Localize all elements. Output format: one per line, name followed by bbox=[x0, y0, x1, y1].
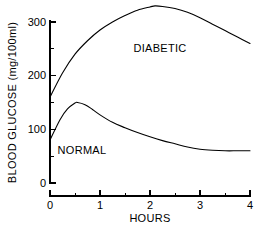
chart-svg: 0 100 200 300 0 1 2 3 4 HOURS BLOOD GLUC… bbox=[0, 0, 271, 235]
x-axis-title: HOURS bbox=[129, 212, 170, 224]
diabetic-series-label: DIABETIC bbox=[133, 42, 186, 54]
y-tick-label-0: 0 bbox=[40, 177, 46, 189]
y-tick-label-200: 200 bbox=[28, 69, 46, 81]
y-axis-title: BLOOD GLUCOSE (mg/100ml) bbox=[6, 22, 18, 183]
normal-series-label: NORMAL bbox=[58, 144, 107, 156]
y-tick-label-300: 300 bbox=[28, 16, 46, 28]
x-tick-label-2: 2 bbox=[147, 199, 153, 211]
x-tick-label-3: 3 bbox=[197, 199, 203, 211]
x-tick-label-0: 0 bbox=[47, 199, 53, 211]
blood-glucose-chart: 0 100 200 300 0 1 2 3 4 HOURS BLOOD GLUC… bbox=[0, 0, 271, 235]
y-tick-label-100: 100 bbox=[28, 123, 46, 135]
x-tick-label-1: 1 bbox=[97, 199, 103, 211]
x-axis-major-ticks bbox=[50, 190, 250, 196]
x-tick-label-4: 4 bbox=[247, 199, 253, 211]
